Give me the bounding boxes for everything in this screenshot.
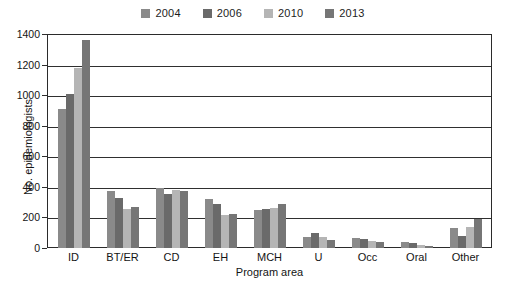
bar [303,237,311,248]
legend-label: 2013 [339,8,364,19]
bar [474,219,482,248]
bar [376,242,384,248]
bar [107,191,115,248]
legend-entry: 2010 [264,8,303,19]
bar [458,236,466,248]
bar [82,40,90,248]
bar [164,194,172,248]
x-tick-label: EH [196,251,245,267]
legend-swatch-icon [203,9,212,18]
bar [425,246,433,248]
bar [115,198,123,248]
x-tick-label: Occ [343,251,392,267]
bar-group-cd [147,34,196,248]
legend-entry: 2004 [141,8,180,19]
y-tick-mark [42,248,47,249]
bar [409,243,417,248]
legend-entry: 2013 [325,8,364,19]
bar [368,241,376,248]
bar [74,68,82,248]
bars-layer [47,34,492,248]
bar [401,242,409,248]
bar-group-u [294,34,343,248]
legend-swatch-icon [264,9,273,18]
bar [180,191,188,248]
bar [58,109,66,248]
bar [262,209,270,248]
bar [221,215,229,248]
bar-chart-figure: 2004200620102013 02004006008001000120014… [0,0,506,291]
bar [278,204,286,248]
bar-group-mch [245,34,294,248]
bar [270,208,278,249]
y-tick-label: 0 [34,243,40,254]
y-tick-label: 1400 [17,29,40,40]
bar [417,245,425,248]
bar [327,240,335,248]
bar [254,210,262,248]
bar [319,237,327,248]
bar [311,233,319,248]
bar [156,188,164,248]
bar [360,239,368,248]
chart-legend: 2004200620102013 [0,5,506,21]
legend-entry: 2006 [203,8,242,19]
x-tick-label: U [294,251,343,267]
legend-label: 2004 [155,8,180,19]
bar [172,190,180,248]
legend-label: 2010 [278,8,303,19]
legend-swatch-icon [325,9,334,18]
x-tick-label: Other [441,251,490,267]
bar-group-id [49,34,98,248]
bar [123,209,131,248]
x-tick-label: ID [49,251,98,267]
x-tick-label: MCH [245,251,294,267]
bar [205,199,213,248]
bar [229,214,237,248]
bar [213,204,221,248]
bar-group-eh [196,34,245,248]
bar [131,207,139,248]
bar [66,94,74,248]
bar-group-oral [392,34,441,248]
y-axis-title: No. epidemiologists [22,67,34,227]
x-axis: IDBT/ERCDEHMCHUOccOralOther [47,251,492,267]
bar [450,228,458,248]
bar-group-other [441,34,490,248]
bar [352,238,360,248]
x-tick-label: BT/ER [98,251,147,267]
x-tick-label: Oral [392,251,441,267]
x-axis-title: Program area [47,266,492,278]
legend-swatch-icon [141,9,150,18]
x-tick-label: CD [147,251,196,267]
bar [466,227,474,248]
bar-group-bt-er [98,34,147,248]
legend-label: 2006 [217,8,242,19]
bar-group-occ [343,34,392,248]
